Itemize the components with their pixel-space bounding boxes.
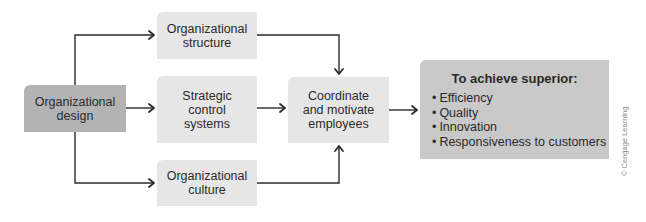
node-label: control [188,103,226,117]
node-strategic-control-systems: Strategic control systems [157,76,257,143]
node-label: culture [188,183,226,197]
node-label: structure [183,36,232,50]
node-label: Coordinate [308,89,369,103]
node-label: Organizational [167,22,248,36]
outcome-item: Quality [432,106,606,121]
node-coordinate-motivate: Coordinate and motivate employees [288,77,389,143]
node-label: design [57,109,94,123]
copyright-credit: © Cengage Learning [620,107,629,176]
outcome-item: Efficiency [432,91,606,106]
node-superior-outcomes: To achieve superior: Efficiency Quality … [420,60,609,159]
node-label: Organizational [35,95,116,109]
node-organizational-structure: Organizational structure [157,12,257,59]
node-organizational-design: Organizational design [24,85,126,132]
node-organizational-culture: Organizational culture [157,160,257,206]
node-label: systems [184,117,230,131]
node-label: and motivate [303,103,375,117]
outcome-item: Innovation [432,120,606,135]
node-label: employees [308,117,368,131]
outcomes-title: To achieve superior: [426,72,603,86]
node-label: Organizational [167,169,248,183]
node-label: Strategic [182,89,231,103]
outcome-item: Responsiveness to customers [432,135,606,150]
outcomes-list: Efficiency Quality Innovation Responsive… [432,91,606,149]
